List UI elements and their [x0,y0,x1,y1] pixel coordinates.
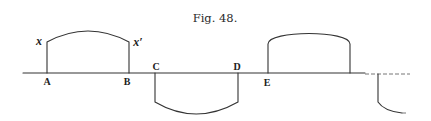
figure-caption: Fig. 48. [193,11,238,25]
negative-wave-trailing [378,74,402,113]
positive-wave-ab [47,31,129,73]
label-c: C [152,61,159,72]
wave-diagram: Fig. 48. A B C D E x x′ [0,0,431,121]
negative-wave-cd [155,73,238,114]
positive-wave-e [268,34,350,74]
label-b: B [124,76,131,87]
label-d: D [233,61,240,72]
label-e: E [264,77,271,88]
figure-48: Fig. 48. A B C D E x x′ [0,0,431,121]
label-a: A [43,76,51,87]
label-x: x [35,34,42,48]
label-x-prime: x′ [132,35,142,49]
